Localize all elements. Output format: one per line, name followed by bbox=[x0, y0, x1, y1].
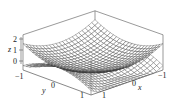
z-axis: 2 1 0 z bbox=[7, 35, 23, 66]
y-axis: −1 0 1 y bbox=[15, 72, 84, 100]
x-tick-1: 1 bbox=[102, 91, 106, 100]
x-axis-label: x bbox=[137, 83, 142, 92]
y-tick-neg1: −1 bbox=[15, 72, 24, 81]
x-tick-neg1: −1 bbox=[158, 71, 167, 80]
z-tick-2: 2 bbox=[13, 35, 17, 44]
y-axis-label: y bbox=[41, 86, 46, 95]
z-tick-0: 0 bbox=[13, 57, 17, 66]
x-tick-0: 0 bbox=[132, 79, 136, 88]
y-tick-0: 0 bbox=[51, 81, 55, 90]
y-tick-1: 1 bbox=[80, 91, 84, 100]
z-tick-1: 1 bbox=[13, 46, 17, 55]
surfaces bbox=[23, 20, 163, 92]
z-axis-label: z bbox=[7, 45, 12, 54]
surface-plot-3d: 2 1 0 z −1 0 1 y 1 0 x −1 bbox=[0, 0, 172, 103]
